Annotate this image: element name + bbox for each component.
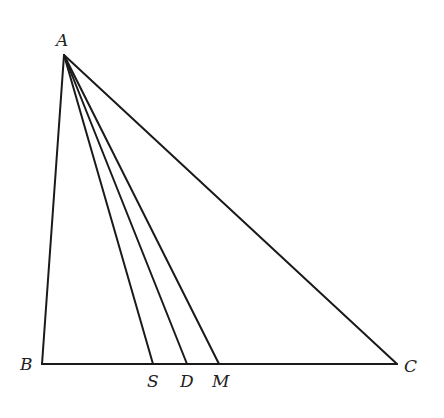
triangle-diagram: A B C S D M [0,0,444,418]
label-s: S [147,371,159,391]
diagram-canvas: A B C S D M [0,0,444,418]
segment-am [64,55,219,364]
segment-ad [64,55,187,364]
label-m: M [211,371,230,391]
label-c: C [404,356,417,376]
label-a: A [54,30,68,50]
segment-ac [64,55,397,364]
segment-as [64,55,153,364]
label-d: D [179,371,194,391]
label-b: B [19,354,33,374]
segment-ab [42,55,64,364]
